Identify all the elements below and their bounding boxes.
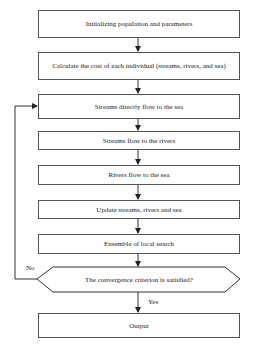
step-label: Streams flow to the rivers [103, 137, 175, 145]
step-label: Output [129, 322, 148, 330]
step-label: Initializing population and parameters [86, 20, 193, 28]
step-local-search: Ensemble of local search [38, 234, 240, 254]
step-streams-to-rivers: Streams flow to the rivers [38, 131, 240, 150]
step-initialize: Initializing population and parameters [38, 10, 240, 38]
step-calculate-cost: Calculate the cost of each individual (s… [38, 52, 240, 80]
decision-label: The convergence criterion is satisfied? [85, 276, 193, 284]
step-streams-to-sea: Streams directly flow to the sea [38, 94, 240, 119]
step-label: Streams directly flow to the sea [95, 103, 183, 111]
step-update: Update streams, rivers and sea [38, 200, 240, 219]
no-label: No [26, 264, 35, 272]
step-label: Update streams, rivers and sea [96, 206, 181, 214]
decision-convergence: The convergence criterion is satisfied? [53, 267, 225, 292]
step-label: Calculate the cost of each individual (s… [52, 62, 226, 70]
step-label: Rivers flow to the sea [108, 171, 169, 179]
step-rivers-to-sea: Rivers flow to the sea [38, 165, 240, 185]
step-label: Ensemble of local search [104, 240, 174, 248]
yes-label: Yes [148, 298, 158, 306]
step-output: Output [38, 313, 240, 338]
